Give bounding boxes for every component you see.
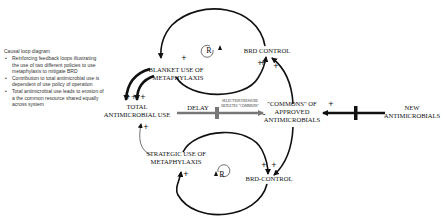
svg-text:+: + xyxy=(271,160,276,170)
node-commons-line2: APPROVED xyxy=(275,108,310,115)
svg-text:+: + xyxy=(183,169,188,179)
node-blanket-use-line2: METAPHYLAXIS xyxy=(153,74,204,81)
node-new-antimicrobials: NEW xyxy=(404,104,420,111)
node-blanket-use: BLANKET USE OF xyxy=(149,66,204,73)
svg-text:+: + xyxy=(261,160,266,170)
selection-pressure-label: SELECTION PRESSURE xyxy=(222,99,258,103)
loop-marker-bottom: R xyxy=(214,165,230,179)
svg-text:+: + xyxy=(125,92,130,102)
loop-arrow-icon xyxy=(214,171,218,176)
svg-text:+: + xyxy=(143,122,148,132)
delay-mark xyxy=(215,107,219,119)
svg-text:-: - xyxy=(263,109,266,119)
svg-text:+: + xyxy=(140,92,145,102)
node-brd-control-top: BRD CONTROL xyxy=(244,47,290,54)
node-commons-line3: ANTIMICROBIALS xyxy=(264,116,321,123)
svg-text:R: R xyxy=(206,46,212,55)
node-commons: "COMMONS" OF xyxy=(267,100,317,107)
loop-marker-top: R xyxy=(201,45,222,57)
svg-text:+: + xyxy=(131,92,136,102)
node-brd-control-bottom: BRD-CONTROL xyxy=(246,175,293,182)
svg-text:+: + xyxy=(273,61,278,71)
causal-loop-diagram: BLANKET USE OF METAPHYLAXIS BRD CONTROL … xyxy=(0,0,443,223)
node-strategic-use-line2: METAPHYLAXIS xyxy=(151,158,202,165)
link-commons-to-brd-bottom xyxy=(274,127,293,175)
node-total-antimicrobial-use: TOTAL xyxy=(127,103,148,110)
selection-pressure-label-line2: DEPLETES "COMMONS" xyxy=(221,104,259,108)
svg-text:+: + xyxy=(260,58,265,68)
svg-text:+: + xyxy=(181,53,186,63)
node-new-antimicrobials-line2: ANTIMICROBIALS xyxy=(384,112,441,119)
svg-text:R: R xyxy=(219,170,225,179)
loop-arrow-icon xyxy=(218,45,222,50)
delay-label: DELAY xyxy=(187,104,209,111)
delay-mark-new xyxy=(354,106,358,120)
svg-text:+: + xyxy=(328,99,333,109)
node-strategic-use: STRATEGIC USE OF xyxy=(146,150,206,157)
node-total-antimicrobial-use-line2: ANTIMICROBIAL USE xyxy=(104,111,171,118)
